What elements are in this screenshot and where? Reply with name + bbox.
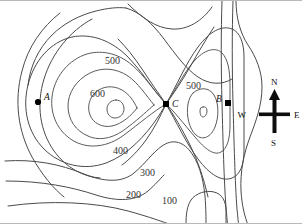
point-c-group[interactable]: C <box>163 99 179 109</box>
contour-line-top-dip <box>128 4 212 29</box>
compass-label-south: S <box>271 138 276 148</box>
compass-rose: N S W E <box>238 77 301 148</box>
contour-line-upper-left <box>28 8 126 85</box>
contour-map-canvas: 600 500 500 400 300 200 100 A C B <box>0 1 302 224</box>
contour-map-figure: 600 500 500 400 300 200 100 A C B <box>0 0 302 224</box>
compass-label-east: E <box>294 110 300 120</box>
contour-line-saddle-upper-left <box>118 39 166 104</box>
point-a-group[interactable]: A <box>35 92 50 105</box>
point-c-label: C <box>172 99 179 109</box>
contour-label-200: 200 <box>126 189 141 200</box>
point-b-group[interactable]: B <box>216 94 231 106</box>
compass-arrowhead-north <box>269 89 280 100</box>
contour-line-saddle-lower <box>122 104 166 165</box>
contour-line-saddle-lower-right <box>166 104 208 197</box>
compass-needle-horizontal <box>259 113 290 117</box>
contour-line-600-west <box>68 69 154 138</box>
point-b-label: B <box>216 94 222 104</box>
contour-line-600-east <box>187 89 217 138</box>
contour-line-300 <box>5 142 206 224</box>
contour-label-500-west: 500 <box>105 55 120 66</box>
contour-label-400: 400 <box>113 145 128 156</box>
contour-summit-east <box>200 107 207 117</box>
point-a-label: A <box>43 92 50 102</box>
point-b-dot[interactable] <box>225 100 231 106</box>
point-a-dot[interactable] <box>35 99 41 105</box>
compass-label-north: N <box>271 77 278 87</box>
contour-line-upper-ridge <box>126 8 232 83</box>
contour-label-500-east: 500 <box>186 80 201 91</box>
contour-label-100: 100 <box>162 195 177 206</box>
contour-line-outer-through-a <box>18 13 64 197</box>
contour-line-100 <box>8 203 172 224</box>
contour-line-vertical-west-of-b <box>221 1 228 224</box>
contour-label-600: 600 <box>90 88 105 99</box>
contour-label-300: 300 <box>140 167 155 178</box>
point-c-dot[interactable] <box>163 101 169 107</box>
contour-summit-west <box>107 100 124 118</box>
compass-label-west: W <box>238 110 247 120</box>
